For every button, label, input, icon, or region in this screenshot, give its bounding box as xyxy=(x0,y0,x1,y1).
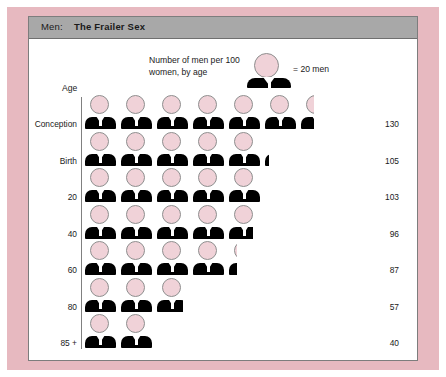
man-figure-icon xyxy=(157,278,183,314)
figure-tie-icon xyxy=(171,193,174,199)
pictogram-figure-group xyxy=(85,168,265,204)
figure-head-icon xyxy=(234,95,253,114)
figure-head-icon xyxy=(90,314,109,333)
figure-head-icon xyxy=(162,278,181,297)
row-value-label: 96 xyxy=(369,229,399,239)
figure-tie-icon xyxy=(135,120,138,126)
figure-head-icon xyxy=(198,241,217,260)
axis-caption-age: Age xyxy=(62,83,77,93)
figure-tie-icon xyxy=(171,230,174,236)
figure-head-icon xyxy=(198,132,217,151)
figure-head-icon xyxy=(234,241,237,260)
figure-head-icon xyxy=(90,95,109,114)
figure-head-icon xyxy=(254,53,279,78)
man-figure-icon xyxy=(121,168,152,204)
figure-tie-icon xyxy=(99,266,102,272)
page-title: The Frailer Sex xyxy=(74,21,145,32)
row-value-label: 87 xyxy=(369,265,399,275)
figure-head-icon xyxy=(162,95,181,114)
row-age-label: 20 xyxy=(29,192,77,202)
chart-header-bar: Men: The Frailer Sex xyxy=(29,17,417,39)
figure-head-icon xyxy=(126,241,145,260)
man-figure-icon xyxy=(193,241,224,277)
figure-head-icon xyxy=(126,314,145,333)
header-prefix: Men: xyxy=(41,21,63,32)
man-figure-icon xyxy=(157,205,188,241)
legend-description: Number of men per 100 women, by age xyxy=(149,55,254,78)
man-figure-icon xyxy=(85,205,116,241)
man-figure-icon xyxy=(265,132,269,168)
figure-head-icon xyxy=(126,205,145,224)
pictogram-figure-group xyxy=(85,132,269,168)
figure-tie-icon xyxy=(268,82,271,88)
row-age-label: Birth xyxy=(29,156,77,166)
man-figure-icon xyxy=(157,132,188,168)
figure-tie-icon xyxy=(243,230,246,236)
pictogram-figure-group xyxy=(85,241,237,277)
figure-tie-icon xyxy=(135,157,138,163)
man-figure-icon xyxy=(85,95,116,131)
row-value-label: 40 xyxy=(369,338,399,348)
man-figure-icon xyxy=(121,314,152,350)
figure-head-icon xyxy=(234,132,253,151)
chart-card: Men: The Frailer Sex Number of men per 1… xyxy=(28,16,418,361)
man-figure-icon xyxy=(193,205,224,241)
man-figure-icon xyxy=(229,168,260,204)
man-figure-icon xyxy=(157,95,188,131)
man-figure-icon xyxy=(85,132,116,168)
poster-frame: Men: The Frailer Sex Number of men per 1… xyxy=(7,7,439,370)
figure-tie-icon xyxy=(99,157,102,163)
legend-unit-label: = 20 men xyxy=(293,64,329,74)
man-figure-icon xyxy=(121,278,152,314)
pictogram-figure-group xyxy=(85,278,183,314)
man-figure-icon xyxy=(265,95,296,131)
figure-tie-icon xyxy=(135,339,138,345)
man-figure-icon xyxy=(121,132,152,168)
legend-man-figure-icon xyxy=(247,53,291,86)
figure-head-icon xyxy=(126,278,145,297)
figure-body-icon xyxy=(265,154,269,166)
figure-tie-icon xyxy=(99,230,102,236)
figure-head-icon xyxy=(198,168,217,187)
man-figure-icon xyxy=(229,205,253,241)
pictogram-figure-group xyxy=(85,205,253,241)
figure-body-icon xyxy=(157,300,183,312)
pictogram-plot: Number of men per 100 women, by age = 20… xyxy=(29,39,418,361)
row-age-label: 60 xyxy=(29,265,77,275)
figure-head-icon xyxy=(162,132,181,151)
figure-head-icon xyxy=(234,168,253,187)
figure-tie-icon xyxy=(99,193,102,199)
figure-tie-icon xyxy=(207,230,210,236)
figure-tie-icon xyxy=(243,193,246,199)
man-figure-icon xyxy=(193,95,224,131)
figure-head-icon xyxy=(90,132,109,151)
figure-tie-icon xyxy=(135,266,138,272)
figure-head-icon xyxy=(306,95,314,114)
figure-head-icon xyxy=(90,168,109,187)
man-figure-icon xyxy=(193,168,224,204)
figure-tie-icon xyxy=(279,120,282,126)
man-figure-icon xyxy=(157,168,188,204)
figure-head-icon xyxy=(234,205,253,224)
figure-body-icon xyxy=(301,117,314,129)
man-figure-icon xyxy=(229,241,237,277)
figure-head-icon xyxy=(90,278,109,297)
figure-body-icon xyxy=(229,227,253,239)
man-figure-icon xyxy=(85,314,116,350)
category-axis-line xyxy=(81,97,82,349)
figure-tie-icon xyxy=(207,193,210,199)
row-age-label: 85 + xyxy=(29,338,77,348)
man-figure-icon xyxy=(193,132,224,168)
figure-tie-icon xyxy=(243,157,246,163)
figure-tie-icon xyxy=(243,120,246,126)
figure-head-icon xyxy=(126,132,145,151)
figure-head-icon xyxy=(198,95,217,114)
figure-tie-icon xyxy=(99,303,102,309)
row-age-label: 40 xyxy=(29,229,77,239)
figure-head-icon xyxy=(126,95,145,114)
row-value-label: 57 xyxy=(369,302,399,312)
figure-body-icon xyxy=(229,263,237,275)
row-value-label: 130 xyxy=(369,119,399,129)
row-value-label: 103 xyxy=(369,192,399,202)
figure-head-icon xyxy=(198,205,217,224)
